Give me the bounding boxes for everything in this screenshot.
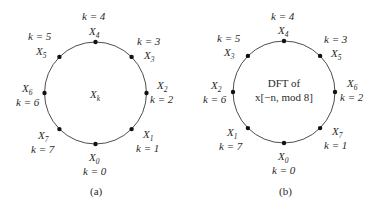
- point-k2-b: [333, 90, 337, 94]
- point-k2-a: [144, 91, 148, 95]
- k-label-3-b: k = 3: [324, 33, 348, 45]
- point-k4-a: [93, 40, 97, 44]
- x-label-0-b: X0: [277, 150, 289, 165]
- point-k4-b: [282, 39, 286, 43]
- point-k6-b: [231, 90, 235, 94]
- x-label-6-a: X6: [21, 82, 33, 97]
- k-label-6-b: k = 6: [203, 93, 227, 105]
- x-label-5-b: X3: [223, 46, 235, 61]
- point-k1-b: [318, 126, 322, 130]
- k-label-2-b: k = 2: [340, 91, 364, 103]
- x-label-7-a: X7: [37, 129, 49, 144]
- x-label-0-a: X0: [88, 151, 100, 166]
- diagram-b: DFT of x[−n, mod 8] k = 4 X4 k = 3 X5 k …: [203, 10, 364, 198]
- point-k6-a: [42, 91, 46, 95]
- k-label-4-b: k = 4: [271, 10, 295, 22]
- x-label-2-a: X2: [156, 79, 168, 94]
- point-k5-b: [246, 54, 250, 58]
- center-label-a: Xk: [89, 88, 101, 103]
- diagram-a: Xk k = 4 X4 k = 3 X3 k = 5 X5 X2 k = 2 X…: [16, 10, 174, 198]
- x-label-3-a: X3: [143, 49, 155, 64]
- point-k0-b: [282, 141, 286, 145]
- k-label-3-a: k = 3: [137, 35, 161, 47]
- k-label-1-b: k = 1: [324, 139, 347, 151]
- k-label-4-a: k = 4: [82, 10, 106, 22]
- x-label-7-b: X1: [226, 126, 237, 141]
- k-label-7-b: k = 7: [219, 140, 243, 152]
- k-label-5-a: k = 5: [28, 30, 52, 42]
- point-k3-b: [318, 54, 322, 58]
- x-label-3-b: X5: [330, 47, 342, 62]
- k-label-1-a: k = 1: [136, 142, 159, 154]
- k-label-0-a: k = 0: [83, 165, 107, 177]
- x-label-2-b: X6: [346, 77, 358, 92]
- x-label-4-b: X4: [277, 24, 289, 39]
- point-k5-a: [57, 55, 61, 59]
- k-label-7-a: k = 7: [31, 143, 55, 155]
- caption-a: (a): [90, 185, 103, 198]
- center-label-b-line1: DFT of: [268, 77, 301, 89]
- point-k7-b: [246, 126, 250, 130]
- x-label-6-b: X2: [210, 79, 222, 94]
- k-label-0-b: k = 0: [272, 164, 296, 176]
- point-k3-a: [129, 55, 133, 59]
- circular-dft-diagram: Xk k = 4 X4 k = 3 X3 k = 5 X5 X2 k = 2 X…: [0, 0, 380, 209]
- point-k0-a: [93, 142, 97, 146]
- caption-b: (b): [279, 185, 292, 198]
- x-label-4-a: X4: [88, 25, 100, 40]
- k-label-5-b: k = 5: [217, 32, 241, 44]
- x-label-5-a: X5: [35, 45, 47, 60]
- center-label-b-line2: x[−n, mod 8]: [255, 91, 313, 103]
- x-label-1-b: X7: [331, 125, 343, 140]
- k-label-2-a: k = 2: [150, 93, 174, 105]
- x-label-1-a: X1: [142, 128, 153, 143]
- point-k1-a: [129, 127, 133, 131]
- point-k7-a: [57, 127, 61, 131]
- k-label-6-a: k = 6: [16, 96, 40, 108]
